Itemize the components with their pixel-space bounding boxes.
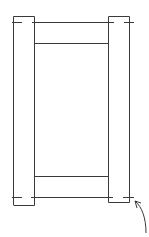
right-stile [109, 17, 130, 203]
frame-diagram: Hand-drawn door/frame elevation: two ver… [0, 0, 149, 237]
frame-drawing [0, 0, 149, 237]
left-stile [14, 17, 35, 206]
curved-arrow-icon [135, 201, 146, 233]
